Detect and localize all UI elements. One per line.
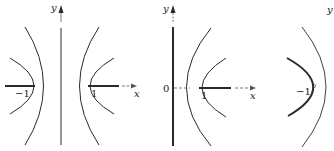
y-axis-arrowhead-middle xyxy=(171,5,176,13)
cut-label-one-middle: 1 xyxy=(201,90,207,101)
y-axis-arrowhead-left xyxy=(59,5,64,13)
y-axis-label-left: y xyxy=(50,2,57,13)
diagram-canvas: y x −1 1 y 0 x 1 xyxy=(0,0,334,151)
x-axis-label-left: x xyxy=(134,88,140,99)
y-axis-label-middle: y xyxy=(162,3,169,14)
panel-left: y x −1 1 xyxy=(5,2,140,145)
cut-label-neg-one: −1 xyxy=(15,88,30,99)
panel-right: y −1 xyxy=(287,4,333,147)
panel-middle: y 0 x 1 xyxy=(162,3,256,146)
cut-label-one: 1 xyxy=(91,88,97,99)
cut-label-neg-one-right: −1 xyxy=(296,86,311,97)
y-axis-label-right: y xyxy=(326,4,333,15)
origin-label-middle: 0 xyxy=(163,83,169,94)
x-axis-label-middle: x xyxy=(250,90,256,101)
